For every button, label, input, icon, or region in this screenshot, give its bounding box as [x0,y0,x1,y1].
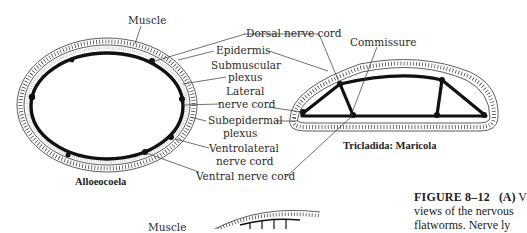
caption-line-2: views of the nervous [414,204,527,218]
maricola-cross-section [290,60,499,132]
label-submuscular-plexus: plexus [228,72,262,83]
alloeocoela-cross-section [17,38,197,172]
caption-line-1-tail: V [518,190,527,204]
label-muscle: Muscle [128,15,166,26]
figure-caption: FIGURE 8–12 (A) V views of the nervous f… [414,190,527,232]
figure-number: FIGURE 8–12 [414,190,490,204]
label-bottom-muscle: Muscle [148,222,186,233]
taxon-tricladida-maricola: Tricladida: Maricola [343,140,436,151]
label-epidermis: Epidermis [216,45,270,56]
taxon-alloeocoela: Alloeocoela [75,176,126,187]
label-ventrolateral-nerve-cord: nerve cord [216,156,273,167]
caption-line-1: FIGURE 8–12 (A) V [414,190,527,204]
caption-line-3: flatworms. Nerve ly [414,218,527,232]
label-submuscular: Submuscular [211,60,281,71]
label-subepidermal-plexus: plexus [223,128,257,139]
label-ventral-nerve-cord: Ventral nerve cord [196,171,295,182]
bottom-partial-cross-section [215,210,320,229]
label-ventrolateral: Ventrolateral [209,143,279,154]
label-subepidermal: Subepidermal [208,115,283,126]
label-commissure: Commissure [350,37,416,48]
label-lateral: Lateral [226,86,264,97]
figure-panel-label: (A) [499,190,516,204]
label-lateral-nerve-cord: nerve cord [218,99,275,110]
label-dorsal-nerve-cord: Dorsal nerve cord [246,28,342,39]
